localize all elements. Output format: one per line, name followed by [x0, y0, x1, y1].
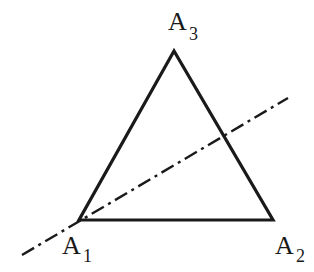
vertex-label-a1: A 1 — [62, 231, 92, 266]
triangle-diagram: A 1 A 2 A 3 — [0, 0, 314, 272]
svg-text:A: A — [62, 231, 81, 260]
svg-text:A: A — [275, 231, 294, 260]
svg-text:A: A — [168, 7, 187, 36]
triangle — [79, 51, 273, 220]
svg-text:1: 1 — [83, 246, 92, 266]
svg-text:3: 3 — [189, 24, 198, 44]
vertex-label-a3: A 3 — [168, 7, 198, 44]
vertex-label-a2: A 2 — [275, 231, 305, 266]
svg-text:2: 2 — [296, 246, 305, 266]
